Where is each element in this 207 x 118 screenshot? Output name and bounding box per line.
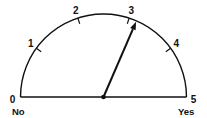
gauge-arc <box>21 14 187 97</box>
gauge-tick <box>127 18 129 24</box>
tick-label: 2 <box>73 5 79 16</box>
gauge-tick <box>36 48 41 52</box>
tick-label: 5 <box>191 94 197 105</box>
gauge-tick <box>78 18 80 24</box>
max-label: Yes <box>178 106 194 117</box>
tick-label: 0 <box>10 94 16 105</box>
gauge-needle <box>104 29 133 97</box>
needle-pivot <box>101 95 106 100</box>
tick-label: 1 <box>28 38 34 49</box>
tick-label: 4 <box>174 38 180 49</box>
min-label: No <box>12 106 25 117</box>
gauge-tick <box>166 48 171 52</box>
needle-arrowhead <box>130 22 136 31</box>
tick-label: 3 <box>129 5 135 16</box>
gauge: 012345 No Yes <box>0 0 207 118</box>
